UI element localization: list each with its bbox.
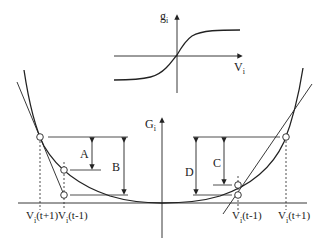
point-left-t-plus-1 bbox=[37, 134, 44, 141]
interval-B: B bbox=[112, 140, 124, 192]
svg-text:D: D bbox=[185, 165, 194, 179]
main-plot: Gi A B bbox=[17, 68, 312, 238]
svg-text:A: A bbox=[80, 147, 89, 161]
inset-plot: gi Vi bbox=[114, 9, 246, 93]
label-right-v-t-plus-1: Vi(t+1) bbox=[278, 209, 311, 225]
point-right-t-minus-1-curve bbox=[235, 182, 242, 189]
point-right-t-plus-1 bbox=[283, 134, 290, 141]
label-left-v-t-plus-1: Vi(t+1) bbox=[26, 209, 59, 225]
inset-x-label: Vi bbox=[234, 60, 246, 76]
label-left-v-t-minus-1: Vi(t-1) bbox=[58, 209, 88, 225]
svg-text:B: B bbox=[112, 160, 120, 174]
point-left-t-minus-1-tangent bbox=[61, 192, 68, 199]
interval-A: A bbox=[80, 140, 92, 167]
diagram-canvas: gi Vi Gi bbox=[0, 0, 326, 238]
main-y-label: Gi bbox=[145, 117, 157, 133]
point-left-t-minus-1-curve bbox=[61, 167, 68, 174]
svg-text:C: C bbox=[213, 156, 221, 170]
diagram-svg: gi Vi Gi bbox=[0, 0, 326, 238]
label-right-v-t-minus-1: Vi(t-1) bbox=[232, 209, 262, 225]
interval-C: C bbox=[213, 140, 224, 182]
energy-curve bbox=[24, 68, 303, 203]
interval-D: D bbox=[185, 140, 196, 192]
inset-y-label: gi bbox=[160, 9, 169, 25]
point-right-t-minus-1-tangent bbox=[235, 192, 242, 199]
